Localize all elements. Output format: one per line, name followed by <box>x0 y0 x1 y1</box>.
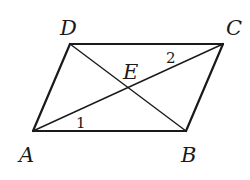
side-bc <box>186 44 223 131</box>
label-e: E <box>122 60 138 84</box>
label-a: A <box>17 143 34 167</box>
label-b: B <box>180 143 196 167</box>
angle-2-label: 2 <box>166 49 176 67</box>
label-c: C <box>226 16 242 40</box>
angle-1-label: 1 <box>76 114 86 132</box>
label-d: D <box>59 16 77 40</box>
parallelogram-diagram: D C A B E 1 2 <box>0 0 250 180</box>
side-da <box>33 44 70 131</box>
